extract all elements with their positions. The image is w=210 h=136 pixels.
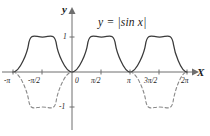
x-tick-label-two-pi: 2π	[181, 77, 189, 85]
sine-negative-branch-right	[130, 72, 187, 108]
y-axis	[69, 7, 76, 130]
x-tick-label-zero: 0	[75, 77, 79, 85]
x-axis-label: X	[197, 67, 204, 78]
x-tick-label-half-pi: π/2	[91, 77, 101, 85]
x-tick-label-neg-pi: -π	[4, 77, 10, 85]
y-axis-label: y	[62, 4, 67, 15]
abs-sine-curve	[13, 36, 187, 72]
y-axis-arrowhead	[69, 7, 76, 14]
x-tick-label-pi: π	[127, 77, 131, 85]
x-tick-label-three-half-pi: 3π/2	[144, 77, 157, 85]
function-graph-figure: y = |sin x| y X -π -π/2 0 π/2 π 3π/2 2π …	[0, 0, 210, 136]
x-tick-label-neg-half-pi: -π/2	[28, 77, 40, 85]
y-tick-label-one: 1	[63, 33, 67, 41]
y-tick-label-neg-one: -1	[59, 103, 65, 111]
equation-label: y = |sin x|	[98, 17, 147, 29]
